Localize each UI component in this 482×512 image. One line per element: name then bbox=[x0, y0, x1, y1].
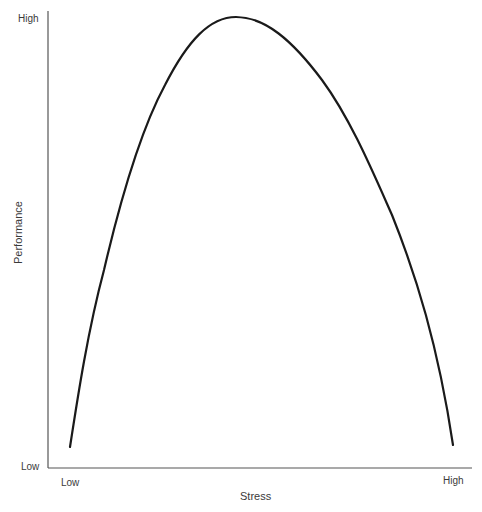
chart-canvas bbox=[0, 0, 482, 512]
y-tick-low: Low bbox=[21, 461, 39, 472]
x-axis-label: Stress bbox=[240, 490, 271, 502]
y-tick-high: High bbox=[18, 13, 39, 24]
performance-curve bbox=[70, 17, 453, 447]
y-axis-label: Performance bbox=[12, 204, 24, 264]
x-tick-high: High bbox=[443, 475, 464, 486]
x-tick-low: Low bbox=[61, 477, 79, 488]
performance-stress-chart: High Low Low High Stress Performance bbox=[0, 0, 482, 512]
